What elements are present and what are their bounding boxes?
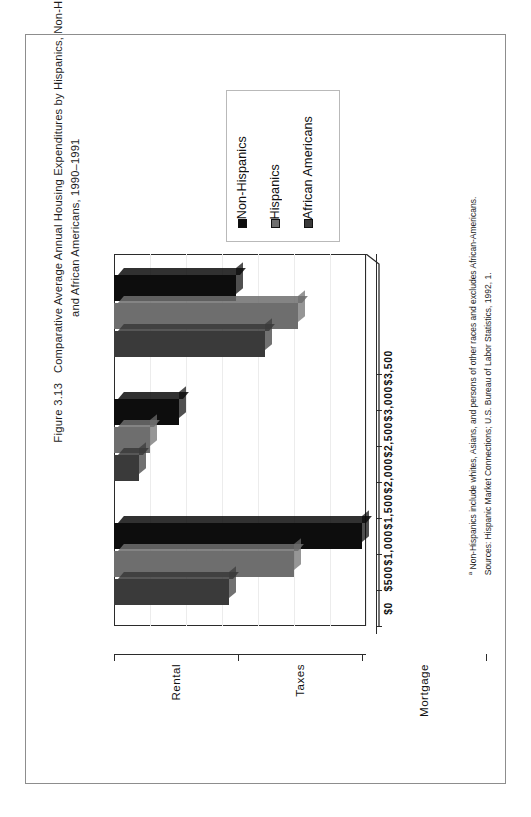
footnote-line: a Non-Hispanics include whites, Asians, … [465, 215, 481, 575]
category-axis-line [114, 654, 366, 655]
figure-title-line-1: Comparative Average Annual Housing Expen… [52, 0, 64, 373]
category-axis-tick [238, 654, 239, 661]
category-axis-tick [362, 654, 363, 661]
bar-face [114, 331, 265, 357]
value-axis-label: $1,000 [383, 530, 394, 565]
chart-legend: Non-Hispanics Hispanics African American… [226, 90, 340, 242]
bar-side [298, 290, 305, 322]
value-axis-label: $1,500 [383, 494, 394, 529]
bar-mortgage-african-americans[interactable] [114, 579, 229, 605]
legend-item-non-hispanics[interactable]: Non-Hispanics [235, 136, 249, 233]
value-axis-tick [376, 482, 382, 483]
figure-title-line-2: and African Americans, 1990–1991 [67, 13, 84, 443]
value-axis-label: $3,000 [383, 386, 394, 421]
value-axis-label: $500 [383, 566, 394, 592]
legend-label: African Americans [301, 116, 315, 219]
value-axis-label: $2,500 [383, 422, 394, 457]
gridline [330, 254, 331, 626]
category-label-mortgage: Mortgage [417, 664, 430, 717]
legend-item-hispanics[interactable]: Hispanics [268, 164, 282, 234]
legend-swatch-hispanics [271, 219, 280, 228]
value-axis-label: $3,500 [383, 350, 394, 385]
footnote-marker: a [466, 572, 473, 575]
figure-page: Figure 3.13 Comparative Average Annual H… [0, 0, 531, 817]
value-axis-tick [376, 374, 382, 375]
category-axis-tick [486, 654, 487, 661]
legend-swatch-non-hispanics [238, 219, 247, 228]
value-axis-label: $2,000 [383, 458, 394, 493]
bar-top [118, 324, 275, 331]
value-axis-label: $0 [383, 602, 394, 615]
footnote-text: Non-Hispanics include whites, Asians, an… [468, 197, 478, 572]
legend-label: Hispanics [268, 164, 282, 220]
value-axis-line [376, 254, 377, 634]
legend-label: Non-Hispanics [235, 136, 249, 219]
value-axis-tick [376, 626, 382, 627]
value-axis-tick [376, 410, 382, 411]
chart-plot-area [106, 254, 374, 654]
category-axis: RentalTaxesMortgage [106, 654, 374, 774]
value-axis-tick [376, 446, 382, 447]
figure-notes: a Non-Hispanics include whites, Asians, … [465, 215, 496, 575]
legend-item-african-americans[interactable]: African Americans [301, 116, 315, 233]
legend-swatch-african-americans [304, 219, 313, 228]
figure-number: Figure 3.13 [52, 383, 64, 443]
value-axis-tick [376, 554, 382, 555]
bar-face [114, 579, 229, 605]
category-label-rental: Rental [169, 664, 182, 701]
bar-face [114, 455, 139, 481]
bar-top [118, 544, 304, 551]
value-axis-tick [376, 518, 382, 519]
value-axis: $0$500$1,000$1,500$2,000$2,500$3,000$3,5… [374, 254, 426, 654]
bar-top [118, 268, 246, 275]
sources-line: Sources: Hispanic Market Connections; U.… [480, 215, 495, 575]
bar-taxes-african-americans[interactable] [114, 455, 139, 481]
value-axis-tick [376, 590, 382, 591]
figure-title: Figure 3.13 Comparative Average Annual H… [49, 13, 84, 443]
bar-top [118, 572, 239, 579]
category-axis-tick [114, 654, 115, 661]
category-label-taxes: Taxes [293, 664, 306, 697]
bar-rental-african-americans[interactable] [114, 331, 265, 357]
bar-top [118, 516, 372, 523]
bar-top [118, 296, 307, 303]
